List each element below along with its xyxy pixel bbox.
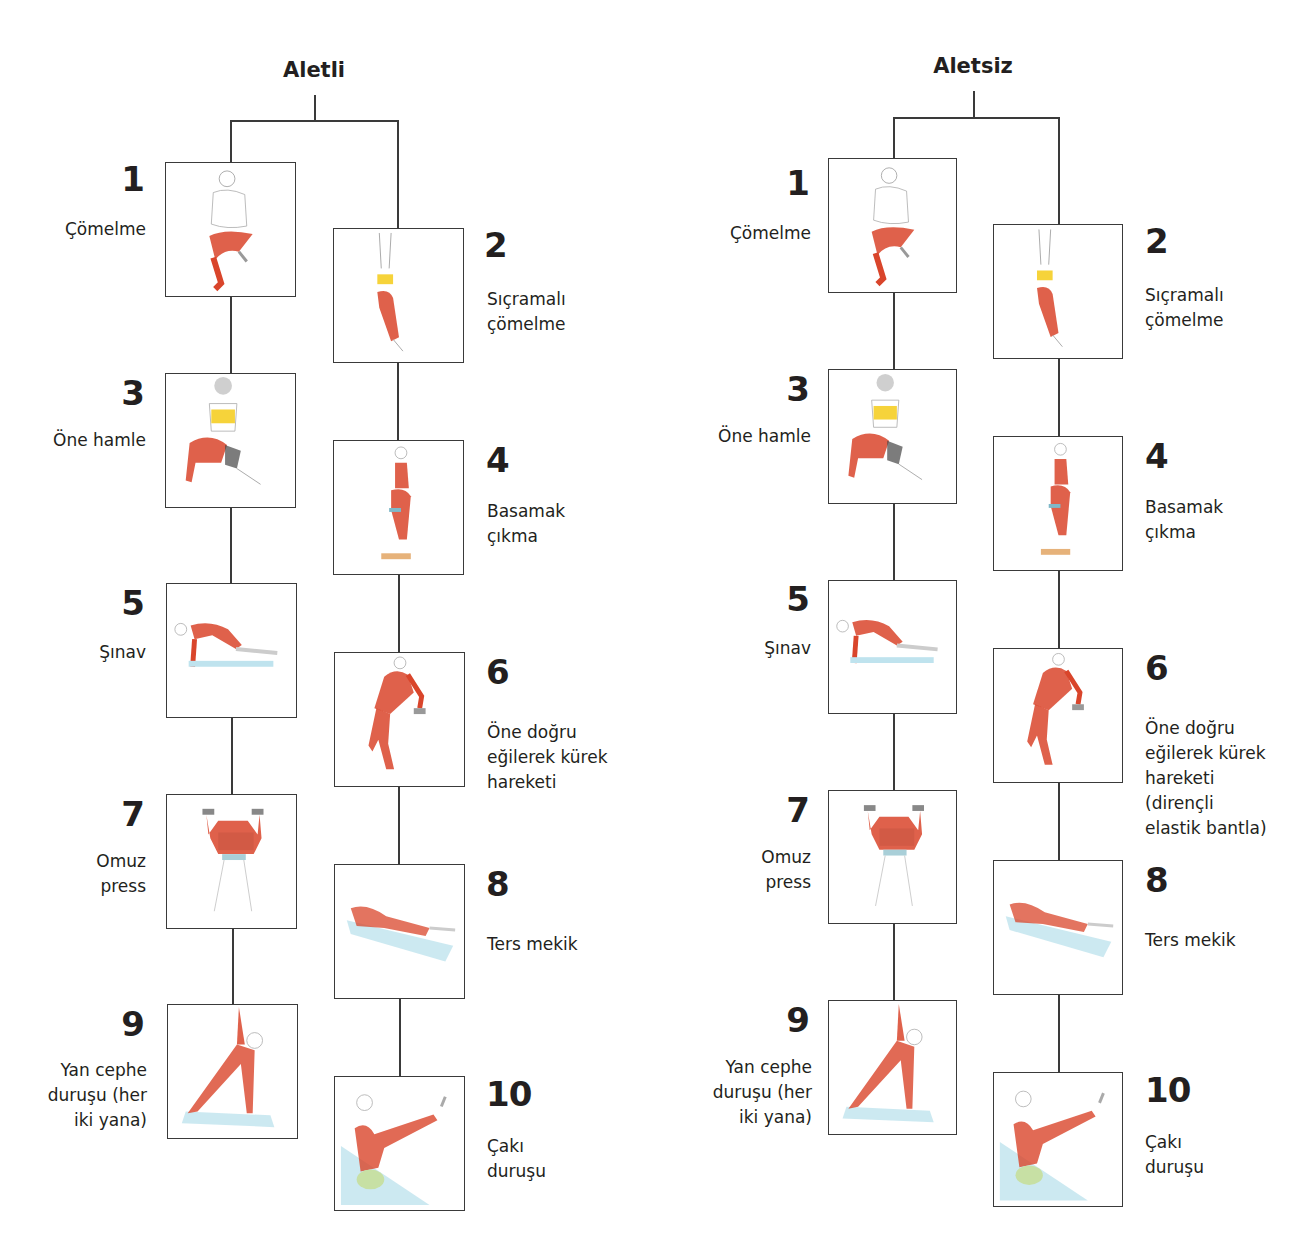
connector <box>893 503 895 581</box>
connector-branch <box>893 117 1059 119</box>
step-number: 8 <box>486 867 509 901</box>
lunge-figure-icon <box>166 374 295 507</box>
exercise-label: Ters mekik <box>1145 928 1236 953</box>
exercise-image-step-up <box>333 440 464 575</box>
exercise-label: Ters mekik <box>487 932 578 957</box>
exercise-image-lunge <box>828 369 957 504</box>
step-number: 5 <box>80 586 144 620</box>
exercise-image-squat <box>828 158 957 293</box>
exercise-image-reverse-crunch <box>334 864 465 999</box>
exercise-image-push-up <box>828 580 957 714</box>
step-number: 1 <box>745 166 809 200</box>
jump-squat-figure-icon <box>994 225 1122 358</box>
connector <box>232 928 234 1005</box>
reverse-crunch-figure-icon <box>994 861 1122 994</box>
exercise-image-push-up <box>166 583 297 718</box>
connector <box>893 292 895 370</box>
v-sit-figure-icon <box>994 1073 1122 1206</box>
exercise-label: Öne hamle <box>20 428 146 453</box>
bent-over-row-figure-icon <box>994 649 1122 782</box>
connector-left <box>230 120 232 162</box>
exercise-label: Omuz press <box>685 845 811 895</box>
jump-squat-figure-icon <box>334 229 463 362</box>
lunge-figure-icon <box>829 370 956 503</box>
exercise-image-step-up <box>993 436 1123 571</box>
connector <box>1058 358 1060 437</box>
side-plank-figure-icon <box>168 1005 297 1138</box>
step-number: 2 <box>484 228 507 262</box>
exercise-image-reverse-crunch <box>993 860 1123 995</box>
connector-right <box>1058 117 1060 225</box>
connector <box>399 998 401 1077</box>
exercise-image-lunge <box>165 373 296 508</box>
exercise-image-shoulder-press <box>166 794 297 929</box>
reverse-crunch-figure-icon <box>335 865 464 998</box>
step-up-figure-icon <box>334 441 463 574</box>
tree-aletsiz: Aletsiz 1 Çömelme 2 Sıçramalı çömelme 3 … <box>655 0 1310 1259</box>
exercise-image-squat <box>165 162 296 297</box>
exercise-image-side-plank <box>828 1000 957 1135</box>
connector <box>1058 570 1060 649</box>
step-number: 10 <box>486 1077 531 1111</box>
exercise-image-v-sit <box>334 1076 465 1211</box>
connector-right <box>397 120 399 228</box>
step-up-figure-icon <box>994 437 1122 570</box>
exercise-label: Omuz press <box>20 849 146 899</box>
step-number: 8 <box>1145 863 1168 897</box>
tree-title: Aletli <box>283 58 345 82</box>
connector-left <box>893 117 895 159</box>
exercise-label: Çömelme <box>20 217 146 242</box>
connector <box>893 923 895 1001</box>
push-up-figure-icon <box>829 581 956 713</box>
exercise-label: Basamak çıkma <box>1145 495 1223 545</box>
step-number: 6 <box>1145 651 1168 685</box>
side-plank-figure-icon <box>829 1001 956 1134</box>
connector <box>1058 782 1060 861</box>
exercise-label: Öne hamle <box>685 424 811 449</box>
connector <box>230 507 232 584</box>
exercise-label: Çömelme <box>685 221 811 246</box>
exercise-image-shoulder-press <box>828 790 957 924</box>
squat-figure-icon <box>829 159 956 292</box>
connector <box>398 574 400 653</box>
exercise-image-side-plank <box>167 1004 298 1139</box>
exercise-label: Şınav <box>685 636 811 661</box>
exercise-label: Basamak çıkma <box>487 499 565 549</box>
exercise-label: Şınav <box>20 640 146 665</box>
exercise-label: Yan cephe duruşu (her iki yana) <box>10 1058 147 1133</box>
exercise-label: Sıçramalı çömelme <box>487 287 566 337</box>
exercise-image-jump-squat <box>993 224 1123 359</box>
bent-over-row-figure-icon <box>335 653 464 786</box>
connector <box>893 713 895 791</box>
exercise-label: Yan cephe duruşu (her iki yana) <box>675 1055 812 1130</box>
step-number: 6 <box>486 655 509 689</box>
step-number: 7 <box>80 797 144 831</box>
shoulder-press-figure-icon <box>829 791 956 923</box>
exercise-image-bent-over-row <box>334 652 465 787</box>
v-sit-figure-icon <box>335 1077 464 1210</box>
shoulder-press-figure-icon <box>167 795 296 928</box>
connector-branch <box>230 120 398 122</box>
exercise-image-bent-over-row <box>993 648 1123 783</box>
exercise-label: Öne doğru eğilerek kürek hareketi <box>487 720 608 795</box>
squat-figure-icon <box>166 163 295 296</box>
step-number: 3 <box>80 376 144 410</box>
step-number: 9 <box>80 1007 144 1041</box>
step-number: 4 <box>1145 439 1168 473</box>
exercise-label: Öne doğru eğilerek kürek hareketi (diren… <box>1145 716 1267 841</box>
tree-title: Aletsiz <box>933 54 1013 78</box>
step-number: 9 <box>745 1003 809 1037</box>
connector <box>230 296 232 374</box>
step-number: 10 <box>1145 1073 1190 1107</box>
exercise-image-v-sit <box>993 1072 1123 1207</box>
step-number: 3 <box>745 372 809 406</box>
step-number: 1 <box>80 162 144 196</box>
exercise-label: Çakı duruşu <box>1145 1130 1204 1180</box>
push-up-figure-icon <box>167 584 296 717</box>
step-number: 5 <box>745 582 809 616</box>
step-number: 7 <box>745 793 809 827</box>
step-number: 4 <box>486 443 509 477</box>
exercise-label: Çakı duruşu <box>487 1134 546 1184</box>
connector <box>1058 994 1060 1073</box>
connector <box>397 362 399 441</box>
